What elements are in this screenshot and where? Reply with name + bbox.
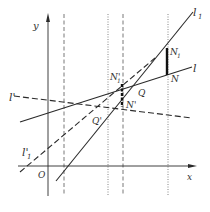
line-l (20, 67, 192, 122)
label-N1-prime-sub: 1 (117, 77, 121, 84)
label-Q-prime: Q' (92, 116, 102, 126)
label-N-prime: N' (125, 100, 136, 110)
line-l1 (56, 12, 193, 181)
x-axis-label: x (187, 172, 192, 182)
line-l-prime (14, 96, 192, 118)
label-l-prime: l' (9, 91, 16, 104)
y-axis-arrow-icon (46, 13, 50, 22)
origin-label: O (38, 170, 46, 180)
label-l1-sub: 1 (198, 13, 202, 21)
x-axis-arrow-icon (188, 164, 197, 168)
label-l: l (193, 62, 197, 75)
label-l1-prime-sub: 1 (27, 153, 31, 161)
label-Q: Q (138, 88, 146, 98)
label-N1-sub: 1 (177, 52, 181, 59)
label-l1: l (193, 6, 197, 19)
label-N: N (170, 74, 180, 84)
y-axis-label: y (32, 20, 39, 31)
geometry-diagram: y x O l 1 l l' l' 1 N 1 N N' 1 N' Q Q' (0, 0, 210, 212)
